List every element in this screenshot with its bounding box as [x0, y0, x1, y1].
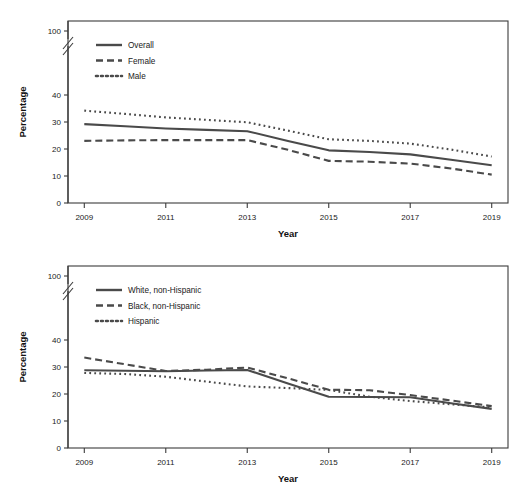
line-chart-raceethnicity: 100403020100200920112013201520172019Year…	[0, 245, 526, 489]
y-tick-label: 20	[52, 390, 61, 399]
y-tick-label: 100	[48, 272, 62, 281]
x-tick-label: 2011	[157, 458, 175, 467]
plot-frame-bottom: 100403020100200920112013201520172019Year…	[17, 266, 508, 484]
x-tick-label: 2013	[238, 458, 256, 467]
series-line	[84, 124, 491, 165]
x-tick-label: 2019	[483, 213, 501, 222]
x-axis-title: Year	[278, 228, 298, 239]
x-tick-label: 2015	[320, 213, 338, 222]
y-tick-label: 30	[52, 363, 61, 372]
x-tick-label: 2019	[483, 458, 501, 467]
y-tick-label: 20	[52, 145, 61, 154]
y-tick-label: 100	[48, 27, 62, 36]
chart-panel-bottom: 100403020100200920112013201520172019Year…	[0, 245, 526, 489]
x-tick-label: 2011	[157, 213, 175, 222]
y-axis-title: Percentage	[17, 331, 28, 382]
x-tick-label: 2017	[401, 213, 419, 222]
x-tick-label: 2017	[401, 458, 419, 467]
y-tick-label: 10	[52, 172, 61, 181]
legend-label: White, non-Hispanic	[128, 286, 201, 295]
legend-label: Overall	[128, 41, 154, 50]
legend-label: Male	[128, 72, 146, 81]
x-axis-title: Year	[278, 473, 298, 484]
x-tick-label: 2015	[320, 458, 338, 467]
y-tick-label: 10	[52, 417, 61, 426]
plot-frame-top: 100403020100200920112013201520172019Year…	[17, 21, 508, 239]
series-line	[84, 373, 491, 408]
y-tick-label: 40	[52, 91, 61, 100]
y-tick-label: 30	[52, 118, 61, 127]
x-tick-label: 2009	[75, 213, 93, 222]
y-tick-label: 40	[52, 336, 61, 345]
chart-panel-top: 100403020100200920112013201520172019Year…	[0, 0, 526, 244]
x-tick-label: 2013	[238, 213, 256, 222]
line-chart-sex: 100403020100200920112013201520172019Year…	[0, 0, 526, 244]
series-line	[84, 358, 491, 407]
legend-label: Female	[128, 57, 156, 66]
x-tick-label: 2009	[75, 458, 93, 467]
y-tick-label: 0	[57, 444, 62, 453]
legend-label: Black, non-Hispanic	[128, 302, 200, 311]
y-tick-label: 0	[57, 199, 62, 208]
y-axis-title: Percentage	[17, 86, 28, 137]
legend-label: Hispanic	[128, 317, 159, 326]
